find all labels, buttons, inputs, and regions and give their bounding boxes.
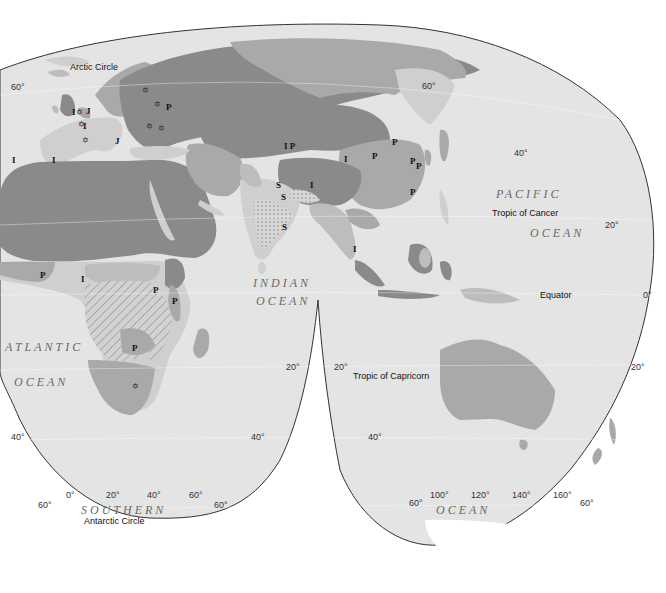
antarctica-left (60, 526, 205, 560)
star-icon-russia-3: ✡ (158, 124, 165, 133)
arctic-circle-label: Arctic Circle (70, 62, 118, 72)
lat-60-sw: 60° (38, 500, 52, 510)
atlantic-ocean-label-2: OCEAN (14, 375, 68, 390)
southern-ocean-label-2: OCEAN (436, 503, 490, 518)
star-icon-britain: ✡ (76, 108, 83, 117)
lat-40-mid-left: 40° (251, 432, 265, 442)
symbol-p-west-africa: P (40, 270, 46, 280)
symbol-p-japan: P (416, 161, 422, 171)
antarctica-right (425, 520, 574, 565)
symbol-p-east-asia-2: P (392, 137, 398, 147)
symbol-i-north-africa: I (12, 155, 16, 165)
star-icon-south-africa: ✡ (132, 382, 139, 391)
symbol-p-east-asia-1: P (372, 151, 378, 161)
pacific-ocean-label-1: PACIFIC (496, 187, 561, 202)
symbol-p-china: P (410, 187, 416, 197)
lat-60-nw: 60° (11, 82, 25, 92)
lat-40-sw: 40° (11, 432, 25, 442)
atlantic-ocean-label-1: ATLANTIC (5, 340, 83, 355)
symbol-j-europe-1: J (86, 106, 91, 116)
symbol-i-spain: I (52, 155, 56, 165)
symbol-p-central-africa: P (153, 285, 159, 295)
lon-160: 160° (553, 490, 572, 500)
lat-0-e: 0° (643, 290, 652, 300)
lon-0: 0° (66, 490, 75, 500)
symbol-i-asia: I (344, 154, 348, 164)
star-icon-switzerland: ✡ (82, 136, 89, 145)
star-icon-russia-1: ✡ (154, 100, 161, 109)
symbol-i-ocean: I (353, 244, 357, 254)
tropic-of-cancer-label: Tropic of Cancer (492, 208, 558, 218)
star-icon-france: ✡ (78, 120, 85, 129)
lat-60-mid-left: 60° (214, 500, 228, 510)
lon-140: 140° (512, 490, 531, 500)
lat-40-mid-right: 40° (368, 432, 382, 442)
lon-60: 60° (189, 490, 203, 500)
symbol-s-pakistan-1: S (276, 180, 281, 190)
pacific-ocean-label-2: OCEAN (530, 226, 584, 241)
equator-label: Equator (540, 290, 572, 300)
symbol-p-east-africa: P (172, 296, 178, 306)
lat-20-mid-left: 20° (286, 362, 300, 372)
lon-100: 100° (430, 490, 449, 500)
lat-20-mid-right: 20° (334, 362, 348, 372)
indian-ocean-label-2: OCEAN (256, 294, 310, 309)
star-icon-baltic: ✡ (142, 86, 149, 95)
lat-60-mid-right: 60° (409, 498, 423, 508)
symbol-s-pakistan-2: S (281, 192, 286, 202)
indian-ocean-label-1: INDIAN (253, 276, 311, 291)
symbol-p-korea: P (410, 156, 416, 166)
symbol-s-india: S (282, 222, 287, 232)
symbol-i-tibet: I (310, 180, 314, 190)
southern-ocean-label-1: SOUTHERN (81, 503, 166, 518)
symbol-p-southern-africa: P (132, 343, 138, 353)
lat-40-e: 40° (514, 148, 528, 158)
lat-20s-e: 20° (631, 362, 645, 372)
symbol-p-russia: P (166, 102, 172, 112)
symbol-i-west-africa: I (81, 274, 85, 284)
symbol-j-europe-2: J (115, 136, 120, 146)
lat-60-ne: 60° (422, 81, 436, 91)
lon-40: 40° (147, 490, 161, 500)
lon-120: 120° (471, 490, 490, 500)
tropic-of-capricorn-label: Tropic of Capricorn (353, 371, 429, 381)
star-icon-russia-2: ✡ (146, 122, 153, 131)
symbol-i-britain: I (72, 107, 76, 117)
lon-20: 20° (106, 490, 120, 500)
lat-20-e: 20° (605, 220, 619, 230)
lat-60-se: 60° (580, 498, 594, 508)
symbol-ip-central-asia: I P (284, 141, 295, 151)
